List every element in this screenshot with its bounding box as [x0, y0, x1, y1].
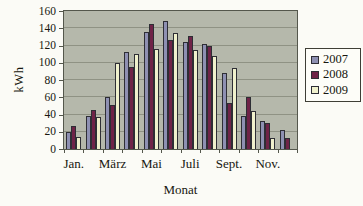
legend-label-2007: 2007: [323, 53, 348, 66]
x-tick-label-sept: Sept.: [208, 157, 250, 171]
x-tick-3: [122, 150, 123, 153]
y-tick-label-120: 120: [26, 39, 56, 52]
y-tick-140: [59, 28, 63, 29]
gridline-120: [64, 45, 297, 46]
x-tick-6: [181, 150, 182, 153]
legend-swatch-2008: [311, 71, 319, 79]
bar-chart: kWh 020406080100120140160Jan.MärzMaiJuli…: [0, 0, 363, 206]
bar-2008-dez: [285, 138, 290, 149]
gridline-40: [64, 114, 297, 115]
x-tick-label-märz: März: [92, 157, 134, 171]
bar-2009-mai: [154, 49, 159, 149]
x-tick-label-juli: Juli: [169, 157, 211, 171]
y-tick-label-60: 60: [26, 91, 56, 104]
y-tick-label-80: 80: [26, 74, 56, 87]
legend-swatch-2007: [311, 56, 319, 64]
y-axis-title: kWh: [12, 65, 27, 95]
x-tick-0: [64, 150, 65, 153]
y-tick-80: [59, 80, 63, 81]
bar-2009-jan: [76, 137, 81, 149]
gridline-100: [64, 62, 297, 63]
x-tick-8: [219, 150, 220, 153]
legend-item-2008: 2008: [311, 68, 360, 81]
bar-2009-apr: [134, 54, 139, 149]
y-tick-0: [59, 149, 63, 150]
gridline-80: [64, 79, 297, 80]
x-tick-5: [161, 150, 162, 153]
x-tick-12: [297, 150, 298, 153]
x-tick-11: [278, 150, 279, 153]
bar-2009-feb: [96, 117, 101, 149]
x-tick-label-mai: Mai: [130, 157, 172, 171]
y-tick-40: [59, 115, 63, 116]
y-tick-160: [59, 11, 63, 12]
y-tick-label-0: 0: [26, 143, 56, 156]
legend-swatch-2009: [311, 86, 319, 94]
legend-label-2009: 2009: [323, 84, 348, 97]
bar-2009-nov: [270, 138, 275, 149]
y-tick-120: [59, 46, 63, 47]
y-tick-20: [59, 132, 63, 133]
x-tick-1: [83, 150, 84, 153]
bar-2009-juli: [193, 50, 198, 149]
x-tick-7: [200, 150, 201, 153]
x-tick-label-jan: Jan.: [53, 157, 95, 171]
bar-2009-okt: [251, 111, 256, 149]
legend-item-2007: 2007: [311, 53, 360, 66]
legend-label-2008: 2008: [323, 68, 348, 81]
legend: 200720082009: [305, 48, 361, 102]
gridline-140: [64, 27, 297, 28]
x-axis-title: Monat: [64, 182, 297, 198]
y-tick-100: [59, 63, 63, 64]
y-tick-60: [59, 97, 63, 98]
y-tick-label-20: 20: [26, 125, 56, 138]
y-tick-label-140: 140: [26, 22, 56, 35]
x-tick-label-nov: Nov.: [247, 157, 289, 171]
y-tick-label-100: 100: [26, 56, 56, 69]
x-tick-4: [142, 150, 143, 153]
x-tick-10: [258, 150, 259, 153]
x-tick-2: [103, 150, 104, 153]
y-tick-label-40: 40: [26, 108, 56, 121]
bar-2009-sept: [232, 68, 237, 149]
x-tick-9: [239, 150, 240, 153]
legend-item-2009: 2009: [311, 84, 360, 97]
y-tick-label-160: 160: [26, 5, 56, 18]
bar-2009-juni: [173, 33, 178, 149]
bar-2009-märz: [115, 63, 120, 149]
bar-2009-aug: [212, 56, 217, 149]
gridline-60: [64, 96, 297, 97]
plot-area: [64, 11, 297, 149]
